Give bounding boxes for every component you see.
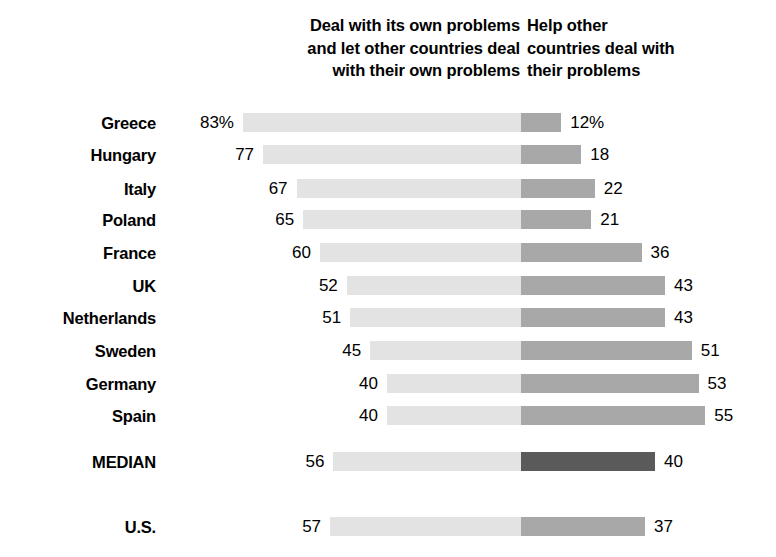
value-label-right: 36 — [651, 238, 731, 268]
value-label-right: 37 — [654, 512, 734, 542]
value-label-left: 45 — [281, 336, 361, 366]
table-row: UK5243 — [0, 271, 776, 301]
value-label-right: 22 — [604, 174, 684, 204]
table-row: MEDIAN5640 — [0, 447, 776, 477]
table-row: Hungary7718 — [0, 140, 776, 170]
value-label-right: 21 — [600, 205, 680, 235]
row-label: Germany — [0, 369, 156, 399]
row-label: Greece — [0, 108, 156, 138]
bar-segment-left — [333, 452, 521, 471]
value-label-right: 53 — [708, 369, 776, 399]
bar-segment-left — [350, 308, 521, 327]
value-label-left: 77 — [174, 140, 254, 170]
bar-segment-right — [521, 341, 692, 360]
value-label-right: 43 — [674, 303, 754, 333]
bar-segment-right — [521, 145, 581, 164]
table-row: Italy6722 — [0, 174, 776, 204]
bar-segment-right — [521, 406, 705, 425]
value-label-left: 40 — [298, 401, 378, 431]
row-label: Italy — [0, 174, 156, 204]
value-label-right: 43 — [674, 271, 754, 301]
row-label: Netherlands — [0, 303, 156, 333]
bar-segment-right — [521, 452, 655, 471]
bar-segment-left — [387, 406, 521, 425]
diverging-bar-chart: Deal with its own problems and let other… — [0, 0, 776, 557]
value-label-left: 56 — [244, 447, 324, 477]
value-label-left: 40 — [298, 369, 378, 399]
value-label-left: 60 — [231, 238, 311, 268]
bar-segment-right — [521, 210, 591, 229]
bar-segment-right — [521, 308, 665, 327]
row-label: Sweden — [0, 336, 156, 366]
row-label: U.S. — [0, 512, 156, 542]
table-row: Germany4053 — [0, 369, 776, 399]
bar-segment-left — [243, 113, 521, 132]
row-label: Poland — [0, 205, 156, 235]
value-label-right: 12% — [570, 108, 650, 138]
bar-segment-right — [521, 276, 665, 295]
bar-segment-left — [347, 276, 521, 295]
row-label: UK — [0, 271, 156, 301]
table-row: France6036 — [0, 238, 776, 268]
bar-segment-left — [303, 210, 521, 229]
bar-segment-right — [521, 179, 595, 198]
table-row: Spain4055 — [0, 401, 776, 431]
bar-segment-right — [521, 517, 645, 536]
value-label-left: 67 — [208, 174, 288, 204]
value-label-right: 55 — [714, 401, 776, 431]
bar-segment-right — [521, 243, 642, 262]
value-label-left: 57 — [241, 512, 321, 542]
table-row: Greece83%12% — [0, 108, 776, 138]
bar-segment-left — [263, 145, 521, 164]
value-label-right: 51 — [701, 336, 776, 366]
table-row: Poland6521 — [0, 205, 776, 235]
table-row: Netherlands5143 — [0, 303, 776, 333]
bar-segment-left — [370, 341, 521, 360]
value-label-right: 40 — [664, 447, 744, 477]
value-label-right: 18 — [590, 140, 670, 170]
row-label: MEDIAN — [0, 447, 156, 477]
value-label-left: 52 — [258, 271, 338, 301]
bar-segment-right — [521, 374, 699, 393]
chart-rows: Greece83%12%Hungary7718Italy6722Poland65… — [0, 0, 776, 557]
row-label: France — [0, 238, 156, 268]
table-row: U.S.5737 — [0, 512, 776, 542]
row-label: Hungary — [0, 140, 156, 170]
value-label-left: 51 — [261, 303, 341, 333]
bar-segment-left — [297, 179, 521, 198]
bar-segment-left — [387, 374, 521, 393]
value-label-left: 65 — [214, 205, 294, 235]
bar-segment-left — [320, 243, 521, 262]
value-label-left: 83% — [154, 108, 234, 138]
bar-segment-left — [330, 517, 521, 536]
bar-segment-right — [521, 113, 561, 132]
row-label: Spain — [0, 401, 156, 431]
table-row: Sweden4551 — [0, 336, 776, 366]
